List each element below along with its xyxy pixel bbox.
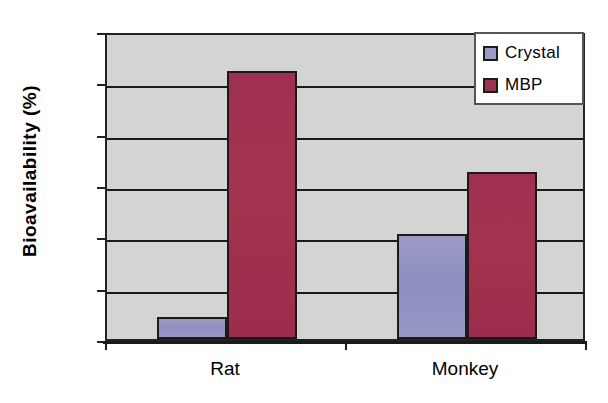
chart-legend: Crystal MBP: [474, 32, 584, 105]
legend-item-crystal[interactable]: Crystal: [483, 43, 560, 63]
y-axis-title: Bioavailability (%): [19, 21, 41, 321]
legend-swatch-crystal-icon: [483, 46, 498, 61]
legend-label-mbp: MBP: [505, 75, 543, 95]
x-category-label-rat: Rat: [145, 358, 305, 380]
y-tick-mark: [97, 290, 105, 292]
legend-swatch-mbp-icon: [483, 78, 498, 93]
bar-rat-mbp: [227, 71, 297, 339]
x-tick-mark: [105, 341, 107, 350]
gridline: [107, 138, 583, 140]
y-tick-mark: [97, 33, 105, 35]
bar-chart: Bioavailability (%) 0102030405060 RatMon…: [0, 0, 608, 403]
y-tick-mark: [97, 238, 105, 240]
bar-rat-crystal: [157, 317, 227, 339]
x-tick-mark: [585, 341, 587, 350]
y-tick-mark: [97, 84, 105, 86]
bar-monkey-crystal: [397, 234, 467, 339]
legend-item-mbp[interactable]: MBP: [483, 75, 543, 95]
x-category-label-monkey: Monkey: [385, 358, 545, 380]
legend-label-crystal: Crystal: [505, 43, 560, 63]
y-tick-mark: [97, 136, 105, 138]
x-tick-mark: [345, 341, 347, 350]
y-tick-mark: [97, 187, 105, 189]
bar-monkey-mbp: [467, 172, 537, 339]
